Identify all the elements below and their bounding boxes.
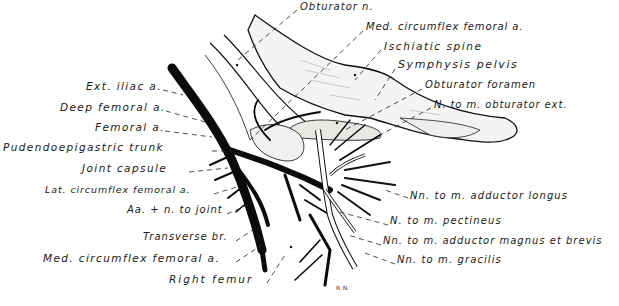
- label-med-circumflex-femoral-a-lower: Med. circumflex femoral a.: [43, 252, 220, 264]
- label-obturator-foramen: Obturator foramen: [425, 79, 536, 91]
- label-femoral-a: Femoral a.: [95, 121, 165, 133]
- label-nn-to-m-adductor-magnus-et-brevis: Nn. to m. adductor magnus et brevis: [383, 235, 603, 247]
- label-deep-femoral-a: Deep femoral a.: [60, 101, 166, 113]
- label-obturator-n: Obturator n.: [300, 1, 374, 13]
- label-symphysis-pelvis: Symphysis pelvis: [398, 59, 518, 71]
- artist-signature: R.N.: [336, 284, 350, 291]
- label-n-to-m-obturator-ext: N. to m. obturator ext.: [434, 99, 567, 111]
- label-ext-iliac-a: Ext. iliac a.: [86, 80, 162, 92]
- anatomical-figure: Ext. iliac a. Deep femoral a. Femoral a.…: [0, 0, 619, 306]
- label-right-femur: Right femur: [169, 273, 253, 285]
- label-nn-to-m-gracilis: Nn. to m. gracilis: [397, 254, 502, 266]
- label-joint-capsule: Joint capsule: [82, 162, 167, 174]
- label-nn-to-m-adductor-longus: Nn. to m. adductor longus: [410, 190, 568, 202]
- label-aa-n-to-joint: Aa. + n. to joint: [127, 204, 223, 216]
- label-lat-circumflex-femoral-a: Lat. circumflex femoral a.: [45, 184, 191, 196]
- label-pudendoepigastric-trunk: Pudendoepigastric trunk: [3, 141, 164, 153]
- label-transverse-br: Transverse br.: [143, 231, 228, 243]
- label-ischiatic-spine: Ischiatic spine: [384, 40, 483, 52]
- label-med-circumflex-femoral-a-upper: Med. circumflex femoral a.: [366, 21, 523, 33]
- obturator-nerve: [318, 130, 365, 268]
- label-n-to-m-pectineus: N. to m. pectineus: [390, 215, 502, 227]
